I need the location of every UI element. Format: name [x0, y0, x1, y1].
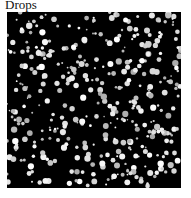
image-caption: Drops [5, 0, 37, 12]
drops-texture [7, 12, 181, 188]
drops-image [7, 12, 181, 188]
